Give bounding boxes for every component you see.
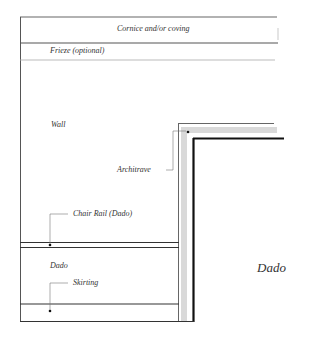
label-frieze: Frieze (optional) <box>50 46 104 55</box>
label-cornice: Cornice and/or coving <box>117 24 189 33</box>
label-dado: Dado <box>50 261 68 270</box>
architrave-pointer-dot <box>187 131 190 134</box>
chair-rail-pointer-dot <box>49 244 52 247</box>
architrave-top-band <box>181 127 277 133</box>
label-chair-rail: Chair Rail (Dado) <box>73 209 132 218</box>
architrave-light-band <box>181 127 187 322</box>
label-dado-large: Dado <box>257 260 286 276</box>
chair-rail-leader-line <box>50 214 68 245</box>
skirting-pointer-dot <box>49 310 52 313</box>
label-wall: Wall <box>51 120 65 129</box>
label-architrave: Architrave <box>117 165 151 174</box>
skirting-leader-line <box>50 283 68 311</box>
label-skirting: Skirting <box>73 278 98 287</box>
